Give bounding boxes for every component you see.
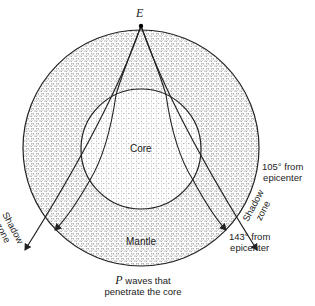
p-waves-caption: P waves that penetrate the core [103,275,183,297]
epicenter-label: E [136,8,143,19]
label-143: 143° from epicenter [229,231,270,253]
epicenter-dot [139,24,143,28]
earth-diagram [0,0,315,306]
core-label: Core [130,143,152,154]
mantle-label: Mantle [126,236,156,247]
label-105: 105° from epicenter [262,161,303,183]
